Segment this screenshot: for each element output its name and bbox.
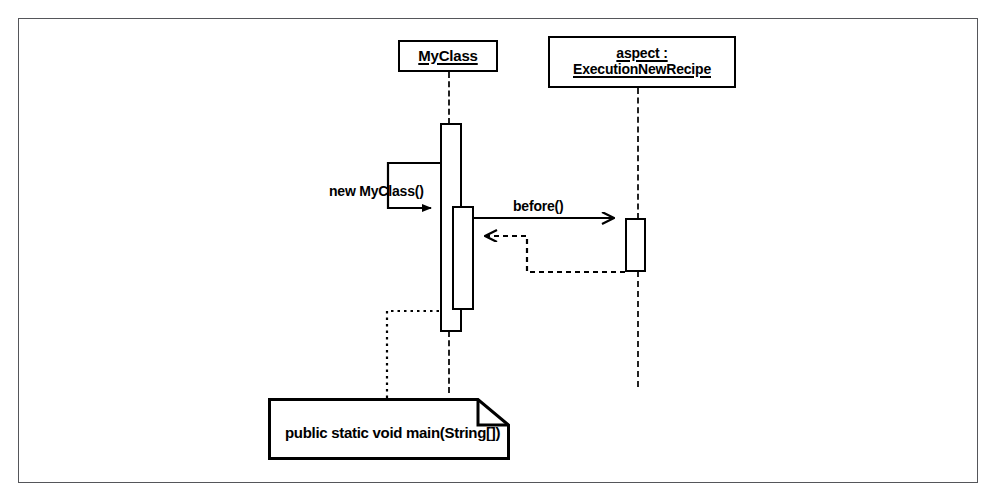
lifeline-aspect-lower [637, 271, 639, 387]
message-label-before: before() [513, 198, 564, 214]
lifeline-myclass-upper [448, 72, 450, 124]
participant-box-myclass[interactable]: MyClass [398, 40, 498, 72]
message-label-new-myclass: new MyClass() [329, 183, 424, 199]
participant-label-aspect-line1: aspect : [616, 46, 667, 62]
activation-bar-myclass-inner [452, 206, 474, 310]
activation-bar-aspect [625, 218, 646, 272]
sequence-diagram-canvas: MyClass aspect : ExecutionNewRecipe [0, 0, 994, 501]
lifeline-myclass-lower [448, 331, 450, 393]
lifeline-aspect-upper [637, 88, 639, 219]
diagram-border [18, 18, 978, 483]
participant-label-myclass: MyClass [418, 48, 477, 65]
participant-box-aspect[interactable]: aspect : ExecutionNewRecipe [548, 36, 736, 88]
note-label-main-method: public static void main(String[]) [285, 424, 500, 441]
participant-label-aspect-line2: ExecutionNewRecipe [573, 62, 711, 78]
